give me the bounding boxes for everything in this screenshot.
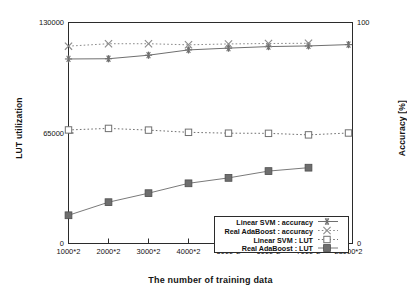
x-tick-label-3: 4000*2 — [177, 247, 201, 256]
data-point-0-2 — [145, 52, 152, 59]
data-point-3-3 — [185, 180, 192, 187]
data-point-3-4 — [225, 174, 232, 181]
y-tick-left-130000: 130000 — [39, 18, 64, 27]
data-point-0-1 — [105, 55, 112, 62]
x-tick-label-1: 2000*2 — [97, 247, 121, 256]
data-point-2-4 — [225, 130, 231, 136]
legend-marker-3 — [324, 245, 331, 252]
legend-label-0[interactable]: Linear SVM : accuracy — [236, 218, 313, 227]
legend-label-1[interactable]: Real AdaBoost : accuracy — [225, 227, 313, 236]
data-point-3-1 — [105, 199, 112, 206]
data-point-3-6 — [305, 164, 312, 171]
data-point-2-3 — [185, 129, 191, 135]
data-point-2-0 — [65, 127, 71, 133]
x-tick-label-2: 3000*2 — [137, 247, 161, 256]
data-point-2-6 — [305, 132, 311, 138]
data-point-2-7 — [345, 130, 351, 136]
legend-marker-2 — [324, 236, 330, 242]
data-point-2-1 — [105, 125, 111, 131]
data-point-3-2 — [145, 190, 152, 197]
y-tick-right-100: 100 — [357, 18, 370, 27]
chart-legend: Linear SVM : accuracy Real AdaBoost : ac… — [215, 217, 349, 254]
legend-label-3[interactable]: Real AdaBoost : LUT — [242, 244, 314, 253]
data-point-0-7 — [345, 41, 352, 48]
data-point-2-2 — [145, 127, 151, 133]
y-tick-left-65000: 65000 — [43, 129, 64, 138]
series-line-3 — [69, 168, 309, 216]
data-point-3-0 — [65, 212, 72, 219]
x-tick-label-0: 1000*2 — [57, 247, 81, 256]
data-point-0-4 — [225, 45, 232, 52]
series-line-0 — [69, 45, 349, 59]
data-point-2-5 — [265, 130, 271, 136]
data-series-layer — [65, 40, 352, 219]
data-point-3-5 — [265, 168, 272, 175]
data-point-0-0 — [65, 55, 72, 62]
